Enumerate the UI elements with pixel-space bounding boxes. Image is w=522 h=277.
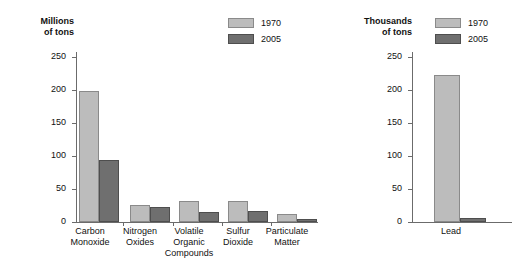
y-axis-title-line1: Thousands <box>364 16 412 26</box>
cat-line: Lead <box>421 226 481 237</box>
x-category-label-lead: Lead <box>421 226 481 237</box>
y-tick-label-200: 200 <box>32 85 66 94</box>
bar-nitrogen-oxides-1970 <box>130 205 150 222</box>
y-axis-title-line1: Millions <box>41 16 75 26</box>
plot-area-emissions: 250 200 150 100 50 0 <box>76 52 318 222</box>
y-tick-250 <box>72 57 76 58</box>
emissions-figure: Millions of tons 1970 2005 250 <box>0 0 522 277</box>
y-tick-label-100: 100 <box>368 151 402 160</box>
cat-line: Matter <box>252 237 322 248</box>
chart-panel-emissions: Millions of tons 1970 2005 250 <box>0 0 340 277</box>
y-tick-label-250: 250 <box>32 52 66 61</box>
legend-swatch-1970 <box>228 18 254 28</box>
y-tick-250 <box>408 57 412 58</box>
legend-label-1970: 1970 <box>261 17 281 29</box>
cat-line: Compounds <box>156 248 222 259</box>
legend-swatch-2005 <box>228 34 254 44</box>
legend-swatch-2005 <box>435 34 461 44</box>
x-axis-line <box>76 222 318 223</box>
bar-lead-1970 <box>434 75 460 222</box>
bar-lead-2005 <box>460 218 486 222</box>
y-tick-200 <box>72 90 76 91</box>
y-tick-200 <box>408 90 412 91</box>
y-tick-label-200: 200 <box>368 85 402 94</box>
bar-particulate-matter-1970 <box>277 214 297 222</box>
x-category-label-particulate-matter: Particulate Matter <box>252 226 322 248</box>
bar-nitrogen-oxides-2005 <box>150 207 170 222</box>
y-tick-50 <box>408 189 412 190</box>
y-axis-line <box>76 52 77 222</box>
y-axis-title-line2: of tons <box>344 27 412 38</box>
bar-carbon-monoxide-2005 <box>99 160 119 222</box>
y-tick-label-150: 150 <box>368 118 402 127</box>
y-tick-label-50: 50 <box>368 184 402 193</box>
y-tick-label-250: 250 <box>368 52 402 61</box>
y-tick-label-0: 0 <box>32 217 66 226</box>
y-axis-title-thousands: Thousands of tons <box>344 16 412 38</box>
legend-swatch-1970 <box>435 18 461 28</box>
y-tick-50 <box>72 189 76 190</box>
chart-panel-lead: Thousands of tons 1970 2005 250 200 <box>340 0 522 277</box>
y-tick-150 <box>408 123 412 124</box>
y-axis-title-line2: of tons <box>16 27 74 38</box>
bar-sulfur-dioxide-2005 <box>248 211 268 222</box>
y-tick-150 <box>72 123 76 124</box>
y-tick-label-50: 50 <box>32 184 66 193</box>
y-tick-0 <box>408 222 412 223</box>
legend-label-1970: 1970 <box>468 17 488 29</box>
y-tick-label-100: 100 <box>32 151 66 160</box>
legend-label-2005: 2005 <box>468 33 488 45</box>
plot-area-lead: 250 200 150 100 50 0 <box>412 52 512 222</box>
y-tick-100 <box>408 156 412 157</box>
bar-volatile-organic-compounds-2005 <box>199 212 219 222</box>
y-tick-label-150: 150 <box>32 118 66 127</box>
bar-carbon-monoxide-1970 <box>79 91 99 222</box>
cat-line: Particulate <box>252 226 322 237</box>
y-tick-100 <box>72 156 76 157</box>
legend-label-2005: 2005 <box>261 33 281 45</box>
x-axis-line <box>412 222 512 223</box>
bar-sulfur-dioxide-1970 <box>228 201 248 222</box>
y-tick-0 <box>72 222 76 223</box>
y-tick-label-0: 0 <box>368 217 402 226</box>
y-axis-title-millions: Millions of tons <box>16 16 74 38</box>
bar-volatile-organic-compounds-1970 <box>179 201 199 222</box>
y-axis-line <box>412 52 413 222</box>
bar-particulate-matter-2005 <box>297 219 317 222</box>
